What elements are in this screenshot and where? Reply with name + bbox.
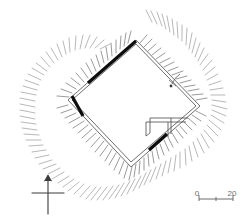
scale-bar: 0 20	[195, 189, 237, 201]
north-arrow	[32, 175, 64, 214]
outer-hachure-ring	[20, 10, 227, 200]
north-arrow-head	[45, 175, 52, 181]
scale-bar-end-label: 20	[228, 189, 237, 198]
plan-canvas: 0 20	[0, 0, 252, 224]
enclosure-outline	[68, 40, 200, 167]
south-east-rampart	[149, 134, 167, 150]
scale-bar-start-label: 0	[195, 189, 200, 198]
north-west-rampart	[88, 41, 136, 83]
earthwork-plan-figure: 0 20	[0, 0, 252, 224]
inner-hachure-ring	[57, 31, 207, 180]
